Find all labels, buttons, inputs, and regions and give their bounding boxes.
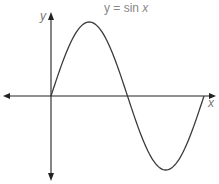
x-axis-label: x	[208, 96, 214, 110]
chart-title: y = sin x	[104, 1, 148, 15]
sine-chart	[0, 0, 219, 184]
y-axis-down-arrow-icon	[48, 173, 54, 181]
x-axis-left-arrow-icon	[3, 93, 10, 99]
y-axis-up-arrow-icon	[48, 12, 54, 20]
y-axis-label: y	[40, 9, 46, 23]
